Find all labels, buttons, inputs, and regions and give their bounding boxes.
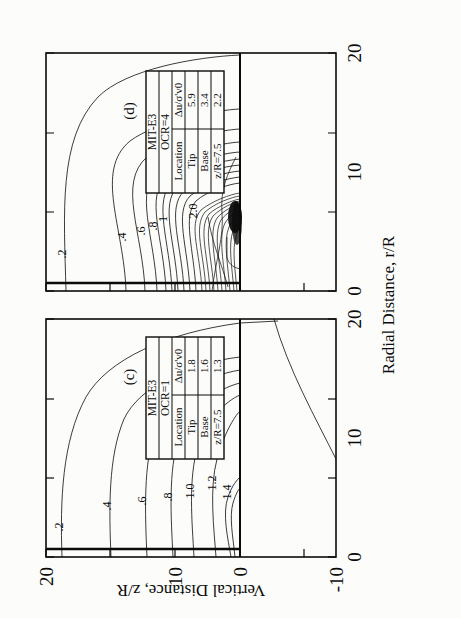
tip-blob2-d <box>232 201 242 245</box>
panel-d-row0-location: Tip <box>185 153 197 168</box>
figure-page: .2 .4 .6 .8 1.0 1.2 1.4 <box>0 0 461 618</box>
panel-c-model: MIT-E3 <box>146 379 158 416</box>
contour-label-d-0: .2 <box>55 250 69 259</box>
panel-c-header-location: Location <box>172 407 184 447</box>
panel-d-table: MIT-E3 OCR=4 Location Δu/σ'v0 Tip 5.9 Ba… <box>146 71 224 193</box>
panel-c-row1-location: Base <box>198 416 210 438</box>
panel-c-row2-value: 1.3 <box>211 359 223 373</box>
contour-label-d-1: .4 <box>115 233 129 242</box>
xtick-c-0: 0 <box>344 552 365 562</box>
contour-label-d-5: 2.0 <box>186 204 200 219</box>
xtick-d-2: 20 <box>344 44 365 63</box>
panel-c-row2-location: z/R=7.5 <box>211 409 223 445</box>
panel-d-header-location: Location <box>172 141 184 181</box>
contour-label-c-5: 1.2 <box>205 476 219 491</box>
panel-c-row0-value: 1.8 <box>185 359 197 373</box>
ytick-1: 10 <box>165 567 186 586</box>
panel-c-header-value: Δu/σ'v0 <box>172 348 184 383</box>
panel-label-d: (d) <box>121 102 138 120</box>
contour-figure: .2 .4 .6 .8 1.0 1.2 1.4 <box>16 9 446 609</box>
contour-label-c-4: 1.0 <box>183 484 197 499</box>
panel-d-row1-value: 3.4 <box>198 93 210 107</box>
panel-c-table: MIT-E3 OCR=1 Location Δu/σ'v0 Tip 1.8 Ba… <box>146 337 224 459</box>
panel-label-c: (c) <box>121 369 138 386</box>
panel-c-ocr: OCR=1 <box>159 380 171 416</box>
panel-d-row2-value: 2.2 <box>211 93 223 107</box>
contour-label-c-2: .6 <box>135 497 149 506</box>
ytick-0: 20 <box>36 567 57 586</box>
ytick-3: -10 <box>326 567 347 592</box>
contour-label-c-6: 1.4 <box>220 485 234 500</box>
contour-label-c-1: .4 <box>100 502 114 511</box>
x-axis-title: Radial Distance, r/R <box>379 235 398 374</box>
panel-d-row0-value: 5.9 <box>185 93 197 107</box>
panel-d-model: MIT-E3 <box>146 113 158 150</box>
y-axis-title: Vertical Distance, z/R <box>116 581 265 600</box>
figure-svg: .2 .4 .6 .8 1.0 1.2 1.4 <box>16 9 446 609</box>
xtick-c-2: 20 <box>344 310 365 329</box>
contour-label-c-3: .8 <box>161 493 175 502</box>
panel-c-row1-value: 1.6 <box>198 359 210 373</box>
xtick-d-1: 10 <box>344 163 365 182</box>
xtick-d-0: 0 <box>344 286 365 296</box>
contour-label-d-3: .8 <box>146 222 160 231</box>
panel-d-header-value: Δu/σ'v0 <box>172 82 184 117</box>
contour-label-c-0: .2 <box>52 523 66 532</box>
rotated-figure-stage: .2 .4 .6 .8 1.0 1.2 1.4 <box>16 9 446 609</box>
panel-c-row0-location: Tip <box>185 419 197 434</box>
panel-d-ocr: OCR=4 <box>159 114 171 150</box>
ytick-2: 0 <box>230 567 251 577</box>
contour-label-d-4: 1 <box>156 216 170 222</box>
panel-d-row1-location: Base <box>198 150 210 172</box>
xtick-c-1: 10 <box>344 429 365 448</box>
panel-d-row2-location: z/R=7.5 <box>211 143 223 179</box>
